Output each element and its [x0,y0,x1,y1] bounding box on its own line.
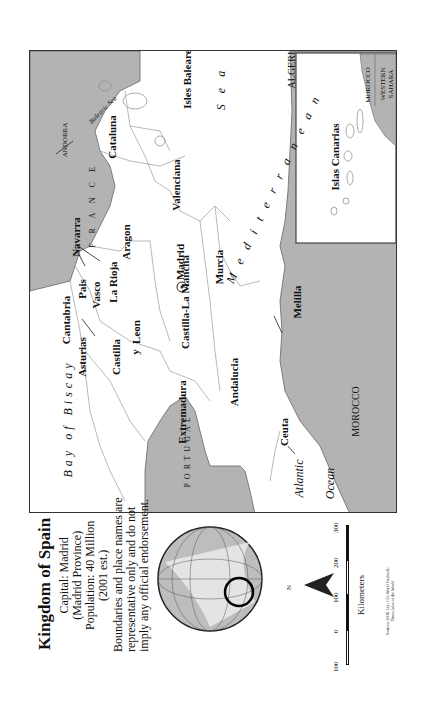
scale-tick: 100 [332,662,340,673]
label-ceuta: Ceuta [278,418,290,446]
globe-locator [155,522,265,637]
label-asturias: Asturias [76,337,88,377]
label-morocco: MOROCCO [350,386,361,437]
label-cataluna: Cataluna [106,115,118,158]
scale-tick: 100 [332,593,340,604]
country-info: Capital: Madrid (Madrid Province) Popula… [58,521,110,630]
label-isles-baleares: Isles Baleares [181,50,193,109]
scale-tick: 0 [332,630,340,634]
inset-label-islas-canarias: Islas Canarias [329,124,341,191]
label-portugal: PORTUGAL [183,413,192,487]
scale-unit: Kilometers [356,575,366,615]
map-frame: F R A N C E ANDORRA Cataluna Navarra Ara… [29,50,397,513]
label-y: y [129,349,141,355]
disclaimer: Boundaries and place names are represent… [112,497,151,652]
label-sea: S e a [214,67,229,110]
label-la-rioja: La Rioja [107,261,119,302]
label-andorra: ANDORRA [61,123,69,158]
label-castilla: Castilla [110,339,122,375]
inset-label-western-sahara: WESTERNSAHARA [379,67,395,100]
label-france: F R A N C E [88,163,97,248]
label-pais: Pais [76,279,88,299]
label-valenciana: Valenciana [170,159,182,211]
label-vasco: Vasco [90,281,102,308]
scale-bar [346,525,351,665]
info-estimate: (2001 est.) [97,521,110,630]
scale-tick: 200 [332,558,340,569]
north-label: N [285,585,293,590]
label-navarra: Navarra [70,217,82,257]
scale-tick: 300 [332,523,340,534]
inset-label-morocco: MOROCCO [364,67,372,102]
label-cantabria: Cantabria [60,296,72,344]
map-title: Kingdom of Spain [35,518,55,650]
label-aragon: Aragon [120,224,132,259]
label-castilla-la-mancha: Castilla-La Mancha [179,255,191,349]
label-atlantic: Atlantic [292,460,307,498]
disclaimer-line: imply any official endorsement. [138,497,151,652]
label-leon: Leon [130,320,142,344]
source-note: Sources: ESRI Ltd.; CIA World Factbook; … [385,567,395,635]
label-andalucia: Andalucia [228,358,240,406]
label-melilla: Melilla [291,286,303,319]
label-algeria: ALGERIA [286,50,297,88]
label-bay-of-biscay: Bay of Biscay [61,360,76,478]
label-ocean: Ocean [323,468,338,499]
source-line: Times Atlas of the World [390,567,395,635]
